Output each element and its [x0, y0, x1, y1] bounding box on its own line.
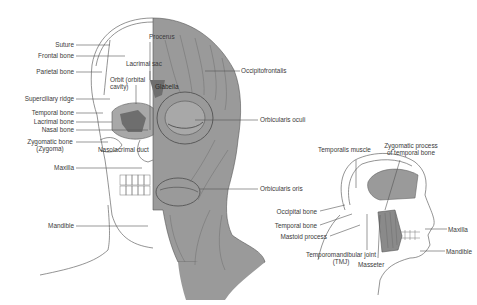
- label-procerus: Procerus: [149, 33, 175, 40]
- label-orbicularis-oculi: Orbicularis oculi: [260, 116, 305, 123]
- label-orbit-line1: Orbit (orbital: [110, 76, 145, 83]
- label-zygomatic-bone: Zygomatic bone (Zygoma): [22, 138, 78, 152]
- label-lacrimal-sac: Lacrimal sac: [126, 60, 162, 67]
- label-parietal-bone: Parietal bone: [10, 68, 74, 75]
- label-orbit: Orbit (orbital cavity): [110, 76, 145, 90]
- label-orbicularis-oris: Orbicularis oris: [260, 185, 303, 192]
- label-mandible-side: Mandible: [446, 248, 472, 255]
- label-mandible: Mandible: [10, 222, 74, 229]
- label-mastoid-process: Mastoid process: [255, 233, 327, 240]
- label-zygomatic-process-line1: Zygomatic process: [378, 142, 444, 149]
- label-tmj-line1: Temporomandibular joint: [296, 251, 386, 258]
- facial-muscles-half: [150, 18, 265, 300]
- label-nasal-bone: Nasal bone: [10, 126, 74, 133]
- label-superciliary-ridge: Superciliary ridge: [0, 95, 74, 102]
- masseter-muscle-shape: [378, 210, 402, 252]
- label-masseter: Masseter: [358, 261, 384, 268]
- label-temporal-bone-side: Temporal bone: [255, 222, 317, 229]
- label-glabella: Glabella: [155, 83, 178, 90]
- anatomy-diagram: Suture Frontal bone Parietal bone Superc…: [0, 0, 477, 305]
- label-nasolacrimal-duct: Nasolacrimal duct: [98, 146, 149, 153]
- label-zygomatic-process-line2: of temporal bone: [378, 149, 444, 156]
- label-zygomatic-process: Zygomatic process of temporal bone: [378, 142, 444, 156]
- label-maxilla-side: Maxilla: [448, 226, 468, 233]
- label-zygomatic-bone-line1: Zygomatic bone: [22, 138, 78, 145]
- label-temporalis-muscle: Temporalis muscle: [318, 146, 371, 153]
- label-temporal-bone: Temporal bone: [10, 109, 74, 116]
- label-maxilla: Maxilla: [10, 164, 74, 171]
- label-occipital-bone: Occipital bone: [255, 208, 317, 215]
- label-zygomatic-bone-line2: (Zygoma): [22, 145, 78, 152]
- label-lacrimal-bone: Lacrimal bone: [10, 118, 74, 125]
- label-frontal-bone: Frontal bone: [10, 52, 74, 59]
- label-suture: Suture: [10, 41, 74, 48]
- label-occipitofrontalis: Occipitofrontalis: [241, 67, 286, 74]
- label-orbit-line2: cavity): [110, 83, 145, 90]
